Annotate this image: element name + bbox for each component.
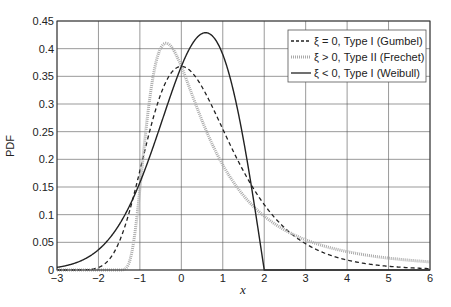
- x-tick-label: 6: [427, 272, 433, 284]
- y-axis-label: PDF: [4, 135, 16, 157]
- legend: ξ = 0, Type I (Gumbel) ξ > 0, Type II (F…: [288, 30, 426, 82]
- y-tick-label: 0.05: [33, 236, 54, 248]
- x-tick-label: 0: [178, 272, 184, 284]
- x-tick-label: −1: [134, 272, 147, 284]
- x-tick-label: 5: [385, 272, 391, 284]
- x-tick-label: 4: [344, 272, 350, 284]
- y-tick-label: 0.4: [39, 43, 54, 55]
- y-tick-label: 0.2: [39, 153, 54, 165]
- y-tick-label: 0.1: [39, 209, 54, 221]
- x-tick-label: −2: [92, 272, 105, 284]
- y-axis-ticks: 00.050.10.150.20.250.30.350.40.45: [33, 15, 54, 276]
- gumbel-curve: [57, 66, 430, 270]
- y-tick-label: 0.15: [33, 181, 54, 193]
- x-tick-label: 2: [261, 272, 267, 284]
- x-tick-label: 3: [303, 272, 309, 284]
- y-tick-label: 0.25: [33, 126, 54, 138]
- legend-label: ξ > 0, Type II (Frechet): [314, 51, 424, 63]
- pdf-chart: 00.050.10.150.20.250.30.350.40.45 −3−2−1…: [0, 0, 451, 307]
- y-tick-label: 0.35: [33, 70, 54, 82]
- y-tick-label: 0.45: [33, 15, 54, 27]
- x-tick-label: −3: [51, 272, 64, 284]
- x-tick-label: 1: [220, 272, 226, 284]
- legend-label: ξ = 0, Type I (Gumbel): [314, 35, 423, 47]
- x-axis-label: x: [239, 282, 246, 297]
- legend-label: ξ < 0, Type I (Weibull): [314, 67, 420, 79]
- y-tick-label: 0.3: [39, 98, 54, 110]
